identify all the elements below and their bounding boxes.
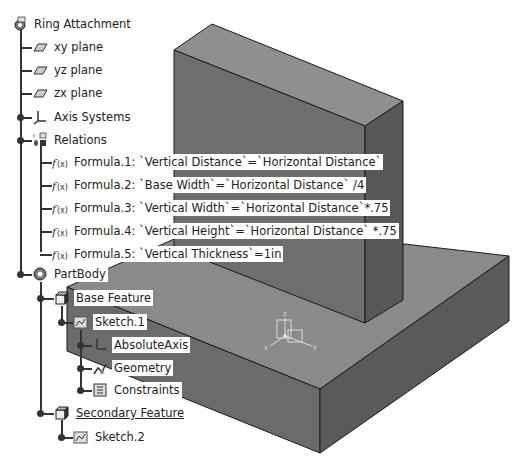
- tree-node-formula-2[interactable]: f(x) Formula.2: `Base Width`=`Horizontal…: [52, 176, 366, 194]
- connector: [40, 231, 52, 233]
- expand-toggle[interactable]: [17, 271, 24, 278]
- tree-node-zx-plane[interactable]: zx plane: [32, 84, 104, 102]
- tree-node-label: Sketch.1: [93, 314, 147, 330]
- tree-node-label: Formula.3: `Vertical Width`=`Horizontal …: [72, 200, 390, 216]
- geometry-icon: [92, 360, 108, 376]
- expand-toggle[interactable]: [77, 387, 84, 394]
- tree-node-label: Relations: [52, 132, 109, 148]
- expand-toggle[interactable]: [77, 365, 84, 372]
- tree-node-xy-plane[interactable]: xy plane: [32, 38, 105, 56]
- tree-node-label: Sketch.2: [93, 429, 147, 445]
- svg-text:(x): (x): [57, 183, 68, 192]
- tree-node-label: Geometry: [112, 360, 173, 376]
- tree-node-formula-5[interactable]: f(x) Formula.5: `Vertical Thickness`=1in: [52, 245, 283, 263]
- connector: [20, 70, 32, 72]
- tree-node-label: Formula.2: `Base Width`=`Horizontal Dist…: [72, 177, 366, 193]
- tree-node-label: Formula.1: `Vertical Distance`=`Horizont…: [72, 154, 383, 170]
- tree-node-label: zx plane: [52, 85, 104, 101]
- tree-node-formula-4[interactable]: f(x) Formula.4: `Vertical Height`=`Horiz…: [52, 222, 399, 240]
- tree-node-label: AbsoluteAxis: [112, 337, 190, 353]
- tree-node-label: Formula.4: `Vertical Height`=`Horizontal…: [72, 223, 399, 239]
- tree-node-label: Formula.5: `Vertical Thickness`=1in: [72, 246, 283, 262]
- expand-toggle[interactable]: [17, 114, 24, 121]
- constraints-icon: [92, 382, 108, 398]
- tree-node-label: yz plane: [52, 62, 104, 78]
- connector: [40, 185, 52, 187]
- body-gear-icon: [32, 266, 48, 282]
- svg-text:(x): (x): [57, 229, 68, 238]
- tree-node-formula-1[interactable]: f(x) Formula.1: `Vertical Distance`=`Hor…: [52, 153, 383, 171]
- tree-node-label: Constraints: [112, 382, 182, 398]
- expand-toggle[interactable]: [37, 295, 44, 302]
- tree-node-geometry[interactable]: Geometry: [92, 359, 173, 377]
- svg-text:(x): (x): [57, 206, 68, 215]
- formula-icon: f(x): [52, 154, 68, 170]
- connector: [20, 93, 32, 95]
- connector: [40, 208, 52, 210]
- tree-node-formula-3[interactable]: f(x) Formula.3: `Vertical Width`=`Horizo…: [52, 199, 390, 217]
- specification-tree: Ring Attachment xy plane yz plane zx pla…: [0, 0, 525, 469]
- tree-node-relations[interactable]: f Relations: [32, 131, 109, 149]
- svg-text:f: f: [33, 133, 35, 139]
- tree-trunk-line: [20, 28, 22, 273]
- plane-icon: [32, 62, 48, 78]
- expand-toggle[interactable]: [37, 410, 44, 417]
- relations-icon: f: [32, 132, 48, 148]
- tree-node-ring-attachment[interactable]: Ring Attachment: [12, 15, 133, 33]
- pad-icon: [54, 290, 70, 306]
- tree-node-base-feature[interactable]: Base Feature: [54, 289, 153, 307]
- tree-node-axis-systems[interactable]: Axis Systems: [32, 108, 132, 126]
- sketch-icon: [73, 314, 89, 330]
- expand-toggle[interactable]: [58, 434, 65, 441]
- tree-node-absolute-axis[interactable]: AbsoluteAxis: [92, 336, 190, 354]
- tree-node-label: Ring Attachment: [32, 16, 133, 32]
- sketch-icon: [73, 429, 89, 445]
- tree-node-secondary-feature[interactable]: Secondary Feature: [54, 404, 186, 422]
- expand-toggle[interactable]: [77, 342, 84, 349]
- absolute-axis-icon: [92, 337, 108, 353]
- connector: [40, 162, 52, 164]
- formula-icon: f(x): [52, 200, 68, 216]
- tree-node-label: xy plane: [52, 39, 105, 55]
- formula-icon: f(x): [52, 177, 68, 193]
- part-gear-icon: [12, 16, 28, 32]
- plane-icon: [32, 39, 48, 55]
- tree-node-label: Base Feature: [74, 290, 153, 306]
- formula-icon: f(x): [52, 223, 68, 239]
- tree-node-partbody[interactable]: PartBody: [32, 265, 108, 283]
- connector: [40, 254, 52, 256]
- plane-icon: [32, 85, 48, 101]
- tree-node-label: Axis Systems: [52, 109, 132, 125]
- tree-node-yz-plane[interactable]: yz plane: [32, 61, 104, 79]
- expand-toggle[interactable]: [17, 137, 24, 144]
- sketch1-trunk-line: [80, 330, 82, 390]
- expand-toggle[interactable]: [58, 319, 65, 326]
- connector: [20, 47, 32, 49]
- svg-text:(x): (x): [57, 252, 68, 261]
- tree-node-sketch-2[interactable]: Sketch.2: [73, 428, 147, 446]
- formula-icon: f(x): [52, 246, 68, 262]
- tree-node-label: PartBody: [52, 266, 108, 282]
- tree-node-constraints[interactable]: Constraints: [92, 381, 182, 399]
- svg-text:(x): (x): [57, 160, 68, 169]
- pad-icon: [54, 405, 70, 421]
- tree-node-sketch-1[interactable]: Sketch.1: [73, 313, 147, 331]
- tree-node-label: Secondary Feature: [74, 405, 186, 421]
- axis-system-icon: [32, 109, 48, 125]
